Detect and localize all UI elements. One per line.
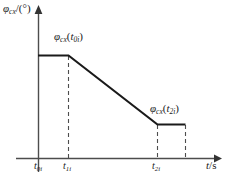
chart-canvas [0,0,229,181]
x-tick-label-t2i-subscript: 2i [155,165,160,172]
x-tick-label-t2i: t2i [152,161,160,171]
x-tick-label-t0i: t0i [34,161,42,171]
annotation-phi-t0i-close: ) [79,30,83,42]
annotation-phi-t2i-subscript: cx [156,107,163,116]
annotation-phi-t0i-subscript: cx [60,35,67,44]
annotation-phi-t0i: φcx(t0i) [54,31,83,42]
x-tick-label-t0i-subscript: 0i [37,165,42,172]
annotation-phi-t0i-arg-subscript: 0i [73,35,79,44]
y-axis-label: φcx/(°) [3,3,31,14]
annotation-phi-t2i-close: ) [175,102,179,114]
annotation-phi-t2i: φcx(t2i) [150,103,179,114]
y-axis [35,5,43,172]
x-tick-label-t1i-subscript: 1i [66,165,71,172]
x-axis-label-unit: s [212,159,216,171]
x-axis [16,155,222,163]
chart-figure: φcx/(°) t/s φcx(t0i) φcx(t2i) t0i t1i t2… [0,0,229,181]
annotation-phi-t2i-arg-subscript: 2i [169,107,175,116]
y-axis-arrow-icon [35,5,43,14]
y-axis-label-subscript: cx [9,7,16,16]
y-axis-label-close: ) [27,2,31,14]
x-axis-label: t/s [206,160,216,171]
response-curve [38,56,186,125]
x-tick-label-t1i: t1i [63,161,71,171]
